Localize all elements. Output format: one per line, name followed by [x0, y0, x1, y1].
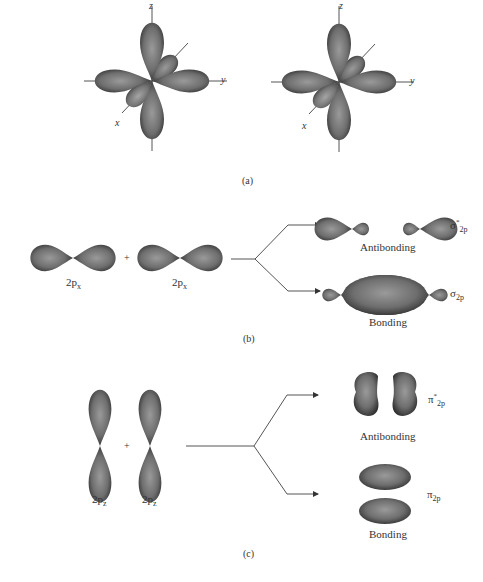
- antibonding-label-c: Antibonding: [360, 430, 416, 442]
- p-orbital-set-right: [271, 6, 414, 152]
- panel-label-c: (c): [243, 548, 254, 559]
- pi-symbol: π2p: [427, 488, 441, 503]
- panel-label-a: (a): [242, 175, 253, 186]
- antibonding-label-b: Antibonding: [360, 241, 416, 253]
- sigma-bonding-orbital: [322, 275, 447, 315]
- orbital-2px-right: [137, 245, 222, 271]
- reaction-arrows-c: [186, 395, 318, 494]
- orbital-label-2pz: 2pz: [142, 493, 157, 508]
- pi-bonding-orbital: [359, 464, 411, 524]
- axis-label-y: y: [410, 75, 414, 86]
- bonding-label-c: Bonding: [369, 528, 407, 540]
- orbital-2px-left: [30, 245, 115, 271]
- p-orbital-set-left: [84, 6, 227, 151]
- pi-star-symbol: π*2p: [428, 392, 445, 408]
- sigma-star-orbital: [315, 218, 458, 241]
- reaction-arrows-b: [231, 225, 320, 291]
- orbital-2pz-left: [89, 390, 112, 502]
- orbital-label-2px: 2px: [172, 276, 187, 291]
- axis-label-x: x: [115, 117, 119, 128]
- orbital-2pz-right: [139, 390, 162, 502]
- plus-sign: +: [124, 252, 130, 263]
- axis-label-z: z: [149, 0, 153, 11]
- bonding-label-b: Bonding: [369, 316, 407, 328]
- axis-label-x: x: [302, 120, 306, 131]
- orbital-label-2pz: 2pz: [92, 493, 107, 508]
- sigma-symbol: σ2p: [450, 287, 464, 302]
- panel-label-b: (b): [243, 333, 255, 344]
- axis-label-y: y: [221, 74, 225, 85]
- plus-sign: +: [124, 440, 130, 451]
- orbital-label-2px: 2px: [66, 276, 81, 291]
- sigma-star-symbol: σ*2p: [450, 218, 467, 234]
- axis-label-z: z: [339, 0, 343, 11]
- pi-star-orbital: [354, 372, 417, 416]
